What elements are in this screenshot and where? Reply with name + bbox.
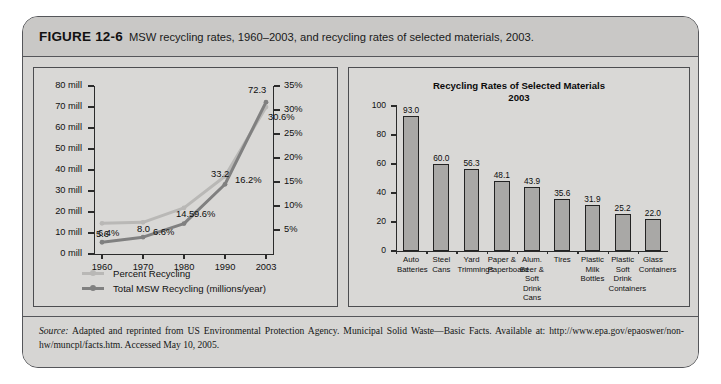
bar-category-label: Plastic Milk Bottles [578, 255, 606, 284]
left-y-tick [88, 127, 94, 128]
total-msw-recycling-point [182, 221, 187, 226]
right-y-tick-label: 35% [284, 80, 303, 90]
bar-x-tick [456, 251, 457, 254]
bar-value-label: 56.3 [454, 158, 490, 168]
figure-caption: MSW recycling rates, 1960–2003, and recy… [129, 31, 534, 43]
bar [585, 205, 601, 251]
right-y-tick-label: 20% [284, 152, 303, 162]
bar-y-tick-label: 100 [360, 100, 386, 110]
left-y-tick-label: 10 mill [36, 227, 82, 237]
bar-x-tick [396, 251, 397, 254]
bar-x-tick [608, 251, 609, 254]
x-tick [183, 254, 184, 259]
total-msw-recycling-point [223, 182, 228, 187]
right-y-tick-label: 25% [284, 128, 303, 138]
left-y-tick [88, 211, 94, 212]
bar [645, 219, 661, 251]
bar [554, 199, 570, 251]
bar-y-tick [391, 221, 397, 222]
bar-y-tick [391, 134, 397, 135]
bar-x-tick [577, 251, 578, 254]
bar-y-axis [396, 106, 397, 251]
figure-page: FIGURE 12-6 MSW recycling rates, 1960–20… [0, 0, 721, 384]
x-tick [224, 254, 225, 259]
legend-item: Percent Recycling [82, 266, 266, 281]
right-y-tick-label: 15% [284, 176, 303, 186]
figure-number: FIGURE 12-6 [39, 29, 123, 44]
bar-category-label: Auto Batteries [397, 255, 425, 274]
bar-x-axis [396, 251, 668, 252]
figure-body: 0 mill10 mill20 mill30 mill40 mill50 mil… [23, 57, 698, 318]
x-tick [101, 254, 102, 259]
source-label: Source: [39, 325, 68, 336]
legend-label-total-msw-recycling: Total MSW Recycling (millions/year) [113, 283, 266, 294]
bar-chart-title: Recycling Rates of Selected Materials 20… [349, 80, 689, 104]
bar-x-tick [426, 251, 427, 254]
bar-category-label: Alum. Beer & Soft Drink Cans [518, 255, 546, 303]
right-y-tick [274, 133, 280, 134]
bar-value-label: 43.9 [514, 176, 550, 186]
source-body: Adapted and reprinted from US Environmen… [39, 325, 684, 350]
bar-x-tick [487, 251, 488, 254]
bar-y-tick [391, 192, 397, 193]
bar-category-label: Glass Containers [639, 255, 667, 274]
line-chart-panel: 0 mill10 mill20 mill30 mill40 mill50 mil… [33, 67, 338, 307]
legend-swatch-percent-recycling [82, 272, 104, 275]
total-msw-recycling-value-label: 72.3 [248, 84, 266, 95]
bar-chart-plot: 02040608010093.0Auto Batteries60.0Steel … [396, 106, 668, 251]
total-msw-recycling-value-label: 8.0 [137, 223, 150, 234]
bar-category-label: Steel Cans [427, 255, 455, 274]
total-msw-recycling-value-label: 5.6 [96, 228, 109, 239]
left-y-tick-label: 50 mill [36, 143, 82, 153]
total-msw-recycling-point [100, 240, 105, 245]
bar-category-label: Tires [548, 255, 576, 265]
right-y-tick-label: 5% [284, 224, 297, 234]
left-y-tick-label: 70 mill [36, 101, 82, 111]
bar-y-tick-label: 0 [360, 245, 386, 255]
total-msw-recycling-point [141, 235, 146, 240]
total-msw-recycling-value-label: 14.5 [176, 208, 194, 219]
line-series-svg [94, 86, 274, 254]
bar [615, 214, 631, 251]
bar [524, 187, 540, 251]
bar-y-tick-label: 80 [360, 129, 386, 139]
total-msw-recycling-value-label: 33.2 [211, 168, 229, 179]
right-y-tick [274, 205, 280, 206]
bar [464, 169, 480, 251]
bar-value-label: 22.0 [635, 208, 671, 218]
left-y-tick-label: 40 mill [36, 164, 82, 174]
figure-frame: FIGURE 12-6 MSW recycling rates, 1960–20… [22, 16, 699, 368]
right-y-tick [274, 181, 280, 182]
left-y-tick-label: 20 mill [36, 206, 82, 216]
right-y-tick [274, 157, 280, 158]
left-y-tick [88, 106, 94, 107]
legend-swatch-total-msw-recycling [82, 287, 104, 290]
figure-header: FIGURE 12-6 MSW recycling rates, 1960–20… [23, 17, 698, 57]
right-y-tick [274, 85, 280, 86]
percent-recycling-value-label: 9.6% [194, 208, 215, 219]
bar-value-label: 31.9 [574, 194, 610, 204]
percent-recycling-value-label: 30.6% [268, 111, 295, 122]
bar-x-tick [517, 251, 518, 254]
bar-y-tick-label: 60 [360, 158, 386, 168]
bar-chart-title-line2: 2003 [349, 92, 689, 104]
bar [494, 181, 510, 251]
percent-recycling-value-label: 16.2% [235, 174, 262, 185]
left-y-tick [88, 253, 94, 254]
left-y-tick-label: 60 mill [36, 122, 82, 132]
x-tick [142, 254, 143, 259]
right-y-tick [274, 229, 280, 230]
bar-category-label: Plastic Soft Drink Containers [609, 255, 637, 293]
percent-recycling-point [100, 221, 105, 226]
bar-y-tick [391, 163, 397, 164]
left-y-tick-label: 80 mill [36, 80, 82, 90]
line-chart-plot: 0 mill10 mill20 mill30 mill40 mill50 mil… [94, 86, 274, 254]
legend-label-percent-recycling: Percent Recycling [113, 268, 190, 279]
x-tick [265, 254, 266, 259]
percent-recycling-value-label: 6.6% [153, 226, 174, 237]
line-chart-legend: Percent Recycling Total MSW Recycling (m… [82, 266, 266, 296]
right-y-tick-label: 10% [284, 200, 303, 210]
total-msw-recycling-point [264, 100, 269, 105]
source-citation: Source: Adapted and reprinted from US En… [39, 324, 684, 352]
bar-x-tick [638, 251, 639, 254]
